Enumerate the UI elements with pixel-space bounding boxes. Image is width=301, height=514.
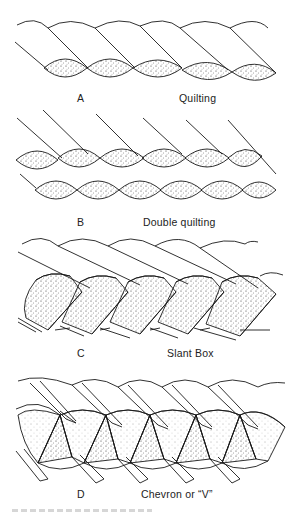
slant-box-diagram [0, 230, 301, 375]
panel-letter: A [77, 92, 84, 104]
panel-title: Slant Box [167, 347, 214, 359]
figure-caption-cropped [12, 509, 152, 512]
quilting-diagram [0, 0, 301, 110]
panel-letter: D [77, 488, 85, 500]
panel-title: Double quilting [143, 216, 215, 228]
panel-letter: B [77, 216, 84, 228]
panel-c-slant-box: C Slant Box [0, 230, 301, 375]
double-quilting-diagram [0, 110, 301, 230]
panel-a-quilting: A Quilting [0, 0, 301, 110]
panel-b-double-quilting: B Double quilting [0, 110, 301, 230]
panel-d-chevron: D Chevron or “V” [0, 375, 301, 510]
panel-title: Quilting [179, 92, 216, 104]
panel-letter: C [77, 347, 85, 359]
panel-title: Chevron or “V” [141, 488, 213, 500]
